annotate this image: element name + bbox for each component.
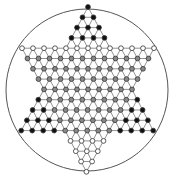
gray-peg-hole xyxy=(96,108,101,113)
black-peg-hole xyxy=(52,128,57,133)
black-peg-hole xyxy=(102,36,107,41)
gray-peg-hole xyxy=(86,66,91,71)
gray-peg-hole xyxy=(58,97,63,102)
gray-peg-hole xyxy=(102,97,107,102)
empty-peg-hole xyxy=(130,46,135,51)
gray-peg-hole xyxy=(91,56,96,61)
gray-peg-hole xyxy=(146,56,151,61)
gray-peg-hole xyxy=(86,87,91,92)
empty-peg-hole xyxy=(75,46,80,51)
empty-peg-hole xyxy=(42,46,47,51)
gray-peg-hole xyxy=(135,77,140,82)
empty-peg-hole xyxy=(79,139,84,144)
gray-peg-hole xyxy=(102,56,107,61)
empty-peg-hole xyxy=(90,159,95,164)
black-peg-hole xyxy=(30,108,35,113)
empty-peg-hole xyxy=(20,46,25,51)
gray-peg-hole xyxy=(80,77,85,82)
gray-peg-hole xyxy=(25,56,30,61)
black-peg-hole xyxy=(146,118,151,123)
empty-peg-hole xyxy=(97,46,102,51)
gray-peg-hole xyxy=(64,66,69,71)
gray-peg-hole xyxy=(58,118,63,123)
black-peg-hole xyxy=(86,25,91,30)
gray-peg-hole xyxy=(47,97,52,102)
empty-peg-hole xyxy=(119,46,124,51)
gray-peg-hole xyxy=(47,56,52,61)
empty-peg-hole xyxy=(31,46,36,51)
gray-peg-hole xyxy=(53,87,58,92)
gray-peg-hole xyxy=(135,56,140,61)
black-peg-hole xyxy=(80,15,85,20)
gray-peg-hole xyxy=(69,97,74,102)
gray-peg-hole xyxy=(63,108,68,113)
gray-peg-hole xyxy=(91,97,96,102)
black-peg-hole xyxy=(80,36,85,41)
empty-peg-hole xyxy=(152,46,157,51)
black-peg-hole xyxy=(41,128,46,133)
empty-peg-hole xyxy=(79,159,84,164)
gray-peg-hole xyxy=(64,87,69,92)
black-peg-hole xyxy=(118,128,123,133)
gray-peg-hole xyxy=(102,118,107,123)
gray-peg-hole xyxy=(97,66,102,71)
gray-peg-hole xyxy=(63,128,68,133)
empty-peg-hole xyxy=(90,139,95,144)
black-peg-hole xyxy=(25,118,30,123)
black-peg-hole xyxy=(129,108,134,113)
empty-peg-hole xyxy=(68,139,73,144)
empty-peg-hole xyxy=(53,46,58,51)
empty-peg-hole xyxy=(84,169,89,174)
black-peg-hole xyxy=(91,15,96,20)
gray-peg-hole xyxy=(107,108,112,113)
black-peg-hole xyxy=(124,118,129,123)
gray-peg-hole xyxy=(124,97,129,102)
gray-peg-hole xyxy=(130,66,135,71)
gray-peg-hole xyxy=(113,118,118,123)
black-peg-hole xyxy=(135,118,140,123)
gray-peg-hole xyxy=(118,108,123,113)
black-peg-hole xyxy=(69,36,74,41)
black-peg-hole xyxy=(129,128,134,133)
black-peg-hole xyxy=(151,128,156,133)
empty-peg-hole xyxy=(86,46,91,51)
gray-peg-hole xyxy=(91,77,96,82)
gray-peg-hole xyxy=(58,56,63,61)
gray-peg-hole xyxy=(36,56,41,61)
empty-peg-hole xyxy=(95,149,100,154)
black-peg-hole xyxy=(86,5,91,10)
gray-peg-hole xyxy=(80,118,85,123)
black-peg-hole xyxy=(41,108,46,113)
gray-peg-hole xyxy=(124,56,129,61)
gray-peg-hole xyxy=(119,87,124,92)
gray-peg-hole xyxy=(124,77,129,82)
empty-peg-hole xyxy=(141,46,146,51)
gray-peg-hole xyxy=(85,108,90,113)
gray-peg-hole xyxy=(31,66,36,71)
black-peg-hole xyxy=(36,118,41,123)
gray-peg-hole xyxy=(108,66,113,71)
gray-peg-hole xyxy=(47,77,52,82)
black-peg-hole xyxy=(140,128,145,133)
black-peg-hole xyxy=(91,36,96,41)
black-peg-hole xyxy=(75,25,80,30)
black-peg-hole xyxy=(140,108,145,113)
black-peg-hole xyxy=(36,97,41,102)
chinese-checkers-board xyxy=(0,0,170,179)
empty-peg-hole xyxy=(84,149,89,154)
gray-peg-hole xyxy=(80,97,85,102)
black-peg-hole xyxy=(47,118,52,123)
gray-peg-hole xyxy=(113,56,118,61)
gray-peg-hole xyxy=(91,118,96,123)
gray-peg-hole xyxy=(74,128,79,133)
gray-peg-hole xyxy=(69,118,74,123)
gray-peg-hole xyxy=(75,66,80,71)
gray-peg-hole xyxy=(113,97,118,102)
gray-peg-hole xyxy=(85,128,90,133)
gray-peg-hole xyxy=(58,77,63,82)
gray-peg-hole xyxy=(97,87,102,92)
gray-peg-hole xyxy=(75,87,80,92)
gray-peg-hole xyxy=(74,108,79,113)
gray-peg-hole xyxy=(42,66,47,71)
gray-peg-hole xyxy=(108,87,113,92)
